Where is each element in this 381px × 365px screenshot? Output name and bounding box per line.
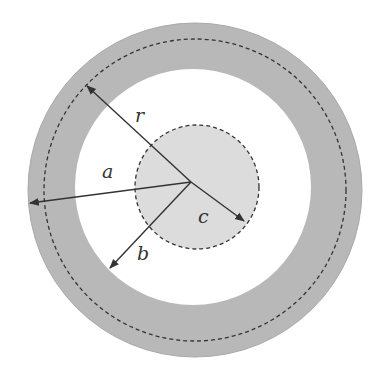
label-c: c bbox=[198, 205, 209, 227]
concentric-circles-diagram: r a b c bbox=[0, 0, 381, 365]
label-a: a bbox=[102, 160, 113, 182]
label-b: b bbox=[137, 242, 149, 264]
